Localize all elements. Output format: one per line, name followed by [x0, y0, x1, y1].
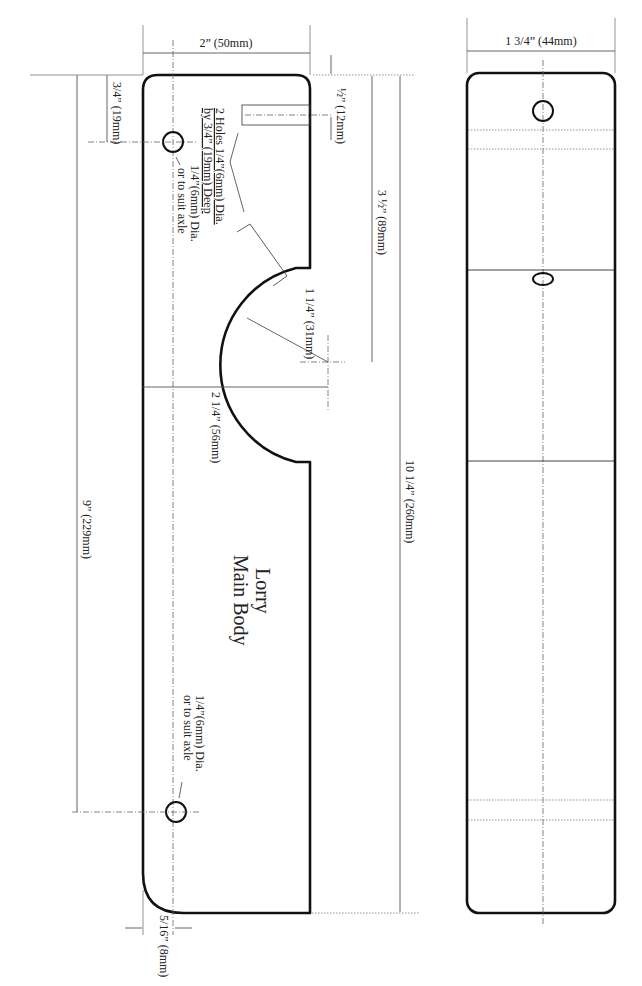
note-axle-top-line2: or to suit axle: [175, 168, 189, 234]
note-holes-line2: by 3/4” (19mm) Deep: [201, 108, 215, 214]
technical-drawing: 2” (50mm) 3/4” (19mm) 9” (229mm) 2 Holes…: [0, 0, 642, 986]
note-axle-bottom-line2: or to suit axle: [181, 695, 195, 761]
dim-hole-edge-offset-label: 5/16” (8mm): [157, 915, 171, 977]
dim-top-to-hole-label: 3/4” (19mm): [110, 82, 124, 144]
note-axle-top-line1: 1/4”(6mm) Dia.: [188, 165, 202, 242]
part-subtitle: Main Body: [229, 555, 252, 646]
slot-hole-angled: [237, 224, 287, 286]
top-view-outline: [467, 73, 615, 913]
dim-slot-offset-label: ½” (12mm): [334, 88, 348, 144]
part-title: Lorry: [251, 568, 274, 614]
dim-width-label: 2” (50mm): [200, 36, 253, 50]
dim-notch-radius-label: 1 1/4” (31mm): [303, 288, 317, 359]
side-view: 2” (50mm) 3/4” (19mm) 9” (229mm) 2 Holes…: [30, 25, 420, 977]
top-view: 1 3/4” (44mm): [467, 18, 615, 925]
dim-top-view-width-label: 1 3/4” (44mm): [505, 34, 576, 48]
dim-notch-width-label: 2 1/4” (56mm): [209, 392, 223, 463]
dim-overall-length-label: 10 1/4” (260mm): [403, 460, 417, 543]
dim-notch-depth-label: 3 ½” (89mm): [375, 190, 389, 255]
dim-hole-to-hole-label: 9” (229mm): [80, 500, 94, 559]
